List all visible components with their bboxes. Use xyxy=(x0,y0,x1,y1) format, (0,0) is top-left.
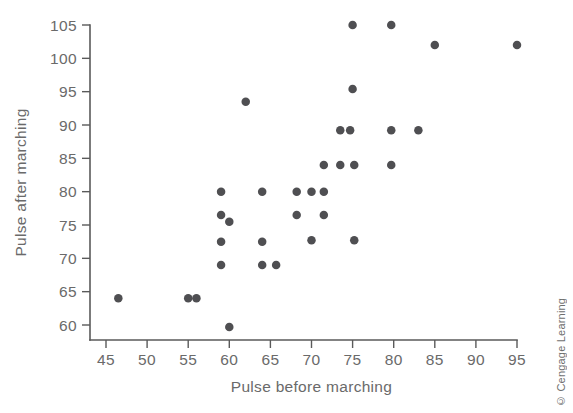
data-point xyxy=(225,217,234,226)
x-tick-label: 90 xyxy=(467,351,485,368)
data-point xyxy=(258,237,267,246)
x-tick-label: 70 xyxy=(302,351,320,368)
y-tick-label: 85 xyxy=(59,150,77,167)
y-tick-label: 90 xyxy=(59,117,77,134)
data-point xyxy=(320,161,329,170)
data-point xyxy=(307,187,316,196)
scatter-plot-figure: 6065707580859095100105 45505560657075808… xyxy=(0,0,573,413)
y-axis-title: Pulse after marching xyxy=(12,108,29,256)
data-point xyxy=(217,261,226,270)
data-point xyxy=(346,126,355,135)
data-point xyxy=(225,323,234,332)
data-point xyxy=(320,211,329,220)
y-axis-ticks: 6065707580859095100105 xyxy=(50,17,90,334)
data-point xyxy=(387,126,396,135)
data-point xyxy=(431,41,440,50)
axis-lines xyxy=(90,25,517,340)
data-point xyxy=(387,161,396,170)
x-tick-label: 45 xyxy=(97,351,115,368)
data-point xyxy=(217,187,226,196)
data-point xyxy=(114,294,123,303)
x-tick-label: 60 xyxy=(220,351,238,368)
data-point xyxy=(336,126,345,135)
x-tick-label: 55 xyxy=(179,351,197,368)
y-tick-label: 70 xyxy=(59,250,77,267)
data-point xyxy=(292,187,301,196)
data-point xyxy=(217,211,226,220)
x-tick-label: 75 xyxy=(344,351,362,368)
data-point xyxy=(217,237,226,246)
data-point xyxy=(348,21,357,30)
data-point xyxy=(192,294,201,303)
plot-canvas: 6065707580859095100105 45505560657075808… xyxy=(0,0,573,413)
data-point xyxy=(414,126,423,135)
x-tick-label: 50 xyxy=(138,351,156,368)
data-point xyxy=(258,261,267,270)
y-tick-label: 75 xyxy=(59,217,77,234)
x-axis-title: Pulse before marching xyxy=(231,378,392,395)
x-tick-label: 95 xyxy=(508,351,526,368)
y-tick-label: 100 xyxy=(50,50,77,67)
data-point xyxy=(292,211,301,220)
data-point xyxy=(307,236,316,245)
data-point xyxy=(258,187,267,196)
data-points xyxy=(114,21,521,332)
x-axis-ticks: 4550556065707580859095 xyxy=(97,340,526,368)
data-point xyxy=(320,187,329,196)
data-point xyxy=(513,41,522,50)
y-tick-label: 95 xyxy=(59,83,77,100)
y-tick-label: 105 xyxy=(50,17,77,34)
data-point xyxy=(272,261,281,270)
x-tick-label: 65 xyxy=(261,351,279,368)
data-point xyxy=(184,294,193,303)
x-tick-label: 85 xyxy=(426,351,444,368)
y-tick-label: 65 xyxy=(59,283,77,300)
data-point xyxy=(350,161,359,170)
data-point xyxy=(387,21,396,30)
data-point xyxy=(241,97,250,106)
data-point xyxy=(348,85,357,94)
copyright-credit: © Cengage Learning xyxy=(551,257,571,407)
y-tick-label: 60 xyxy=(59,317,77,334)
y-tick-label: 80 xyxy=(59,183,77,200)
data-point xyxy=(350,236,359,245)
data-point xyxy=(336,161,345,170)
x-tick-label: 80 xyxy=(385,351,403,368)
